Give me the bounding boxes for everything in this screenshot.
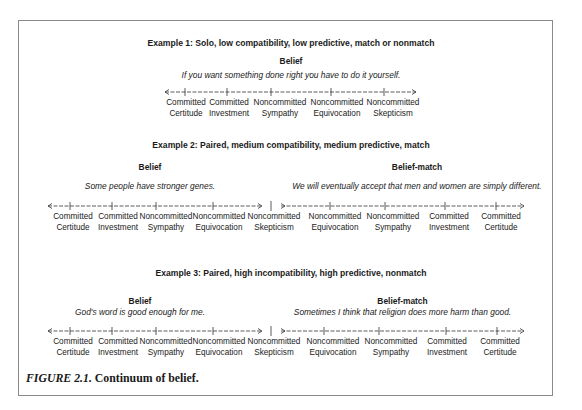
scale-label-committed-investment: CommittedInvestment bbox=[427, 337, 467, 358]
scale-label-committed-investment: CommittedInvestment bbox=[98, 337, 138, 358]
figure-caption-text: Continuum of belief. bbox=[92, 371, 199, 385]
figure-number: FIGURE 2.1. bbox=[26, 371, 92, 385]
scale-label-committed-certitude: CommittedCertitude bbox=[53, 337, 93, 358]
scale-label-noncommitted-skepticism: NoncommittedSkepticism bbox=[248, 337, 301, 358]
scale-label-noncommitted-equivocation: NoncommittedEquivocation bbox=[193, 337, 246, 358]
scale-label-committed-certitude: CommittedCertitude bbox=[480, 337, 520, 358]
figure-caption: FIGURE 2.1. Continuum of belief. bbox=[26, 371, 199, 386]
scale-label-noncommitted-equivocation: NoncommittedEquivocation bbox=[307, 337, 360, 358]
scale-label-noncommitted-sympathy: NoncommittedSympathy bbox=[140, 337, 193, 358]
scale-label-noncommitted-sympathy: NoncommittedSympathy bbox=[365, 337, 418, 358]
